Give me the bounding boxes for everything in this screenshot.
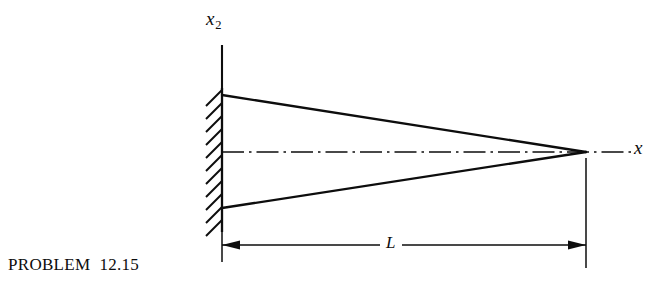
dimension-arrowhead-right — [568, 241, 586, 250]
axis-label-x1: x — [634, 137, 643, 162]
axis-label-x2-letter: x — [206, 8, 215, 29]
fixed-support-hatching — [206, 90, 222, 236]
axis-label-x2-subscript: 2 — [215, 18, 221, 32]
dimension-arrowhead-left — [222, 241, 240, 250]
wedge-top-edge — [222, 95, 586, 152]
wedge-bottom-edge — [222, 152, 586, 208]
figure-caption: PROBLEM12.15 — [8, 255, 139, 275]
caption-problem-number: 12.15 — [99, 255, 139, 274]
axis-label-x1-letter: x — [634, 137, 643, 158]
figure-page: x2 x L PROBLEM12.15 — [0, 0, 655, 286]
axis-label-x2: x2 — [206, 8, 222, 33]
technical-diagram — [0, 0, 655, 286]
caption-problem-word: PROBLEM — [8, 255, 90, 274]
dimension-label-L: L — [386, 233, 395, 253]
